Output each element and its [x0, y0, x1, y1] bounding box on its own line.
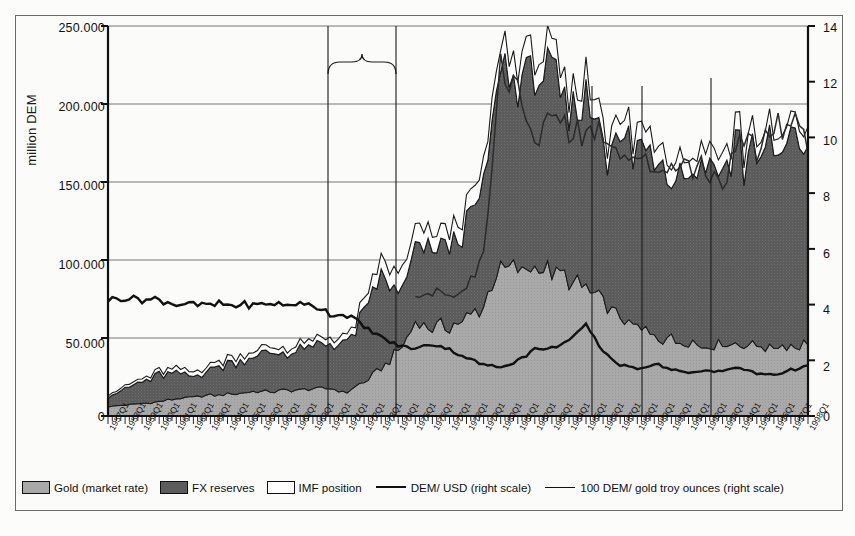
legend-swatch-fx-icon [160, 481, 188, 494]
legend-item-fx-reserves[interactable]: FX reserves [160, 481, 255, 494]
legend-swatch-gold-line-icon [545, 487, 575, 488]
legend-swatch-dem-usd-line-icon [376, 486, 406, 488]
legend-item-gold-troy-ounces[interactable]: 100 DEM/ gold troy ounces (right scale) [543, 481, 784, 494]
legend-item-dem-usd[interactable]: DEM/ USD (right scale) [374, 481, 531, 494]
legend-label-fx-reserves: FX reserves [192, 481, 255, 494]
legend-item-imf-position[interactable]: IMF position [267, 481, 362, 494]
legend-item-gold[interactable]: Gold (market rate) [22, 481, 148, 494]
legend-label-gold-troy-ounces: 100 DEM/ gold troy ounces (right scale) [580, 481, 784, 494]
legend-swatch-gold-icon [22, 481, 50, 494]
legend-swatch-imf-icon [267, 481, 295, 494]
legend-label-imf-position: IMF position [299, 481, 362, 494]
chart-legend: Gold (market rate) FX reserves IMF posit… [22, 477, 832, 497]
chart-page: million DEM 250.000 200.000 150.000 100.… [0, 0, 855, 536]
legend-label-gold: Gold (market rate) [54, 481, 148, 494]
chart-plot-area [0, 0, 855, 536]
legend-label-dem-usd: DEM/ USD (right scale) [411, 481, 531, 494]
